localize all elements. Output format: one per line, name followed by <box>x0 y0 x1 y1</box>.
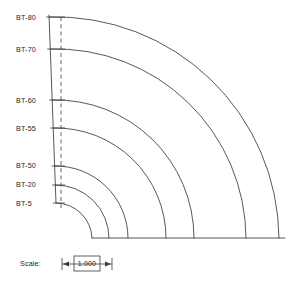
scale-arrow-right-icon <box>105 261 111 266</box>
bt-label-bt-80: BT-80 <box>16 13 36 22</box>
scale-arrow-left-icon <box>63 261 69 266</box>
left-boundary-edge <box>49 15 56 203</box>
quarter-annulus-diagram: BT-80BT-70BT-60BT-55BT-50BT-20BT-5 Scale… <box>0 0 305 288</box>
arc-group <box>49 17 279 238</box>
arc-bt-70 <box>50 49 246 238</box>
bt-label-bt-50: BT-50 <box>16 161 36 170</box>
left-edge-line <box>49 15 56 203</box>
arc-bt-55 <box>53 128 166 238</box>
arc-bt-5 <box>56 203 92 238</box>
arc-bt-50 <box>55 166 128 238</box>
bt-label-bt-70: BT-70 <box>16 45 36 54</box>
bt-label-group: BT-80BT-70BT-60BT-55BT-50BT-20BT-5 <box>16 13 36 208</box>
technical-drawing-canvas: BT-80BT-70BT-60BT-55BT-50BT-20BT-5 Scale… <box>0 0 305 288</box>
arc-bt-80 <box>49 17 279 238</box>
scale-indicator: Scale: 1.000 <box>20 256 112 271</box>
arc-bt-20 <box>55 185 109 238</box>
scale-label: Scale: <box>20 259 41 268</box>
bt-label-bt-60: BT-60 <box>16 96 36 105</box>
bt-label-bt-55: BT-55 <box>16 124 36 133</box>
label-tick-group <box>46 17 65 203</box>
scale-value: 1.000 <box>78 260 96 267</box>
bt-label-bt-5: BT-5 <box>16 199 32 208</box>
arc-bt-60 <box>52 100 194 238</box>
bt-label-bt-20: BT-20 <box>16 180 36 189</box>
